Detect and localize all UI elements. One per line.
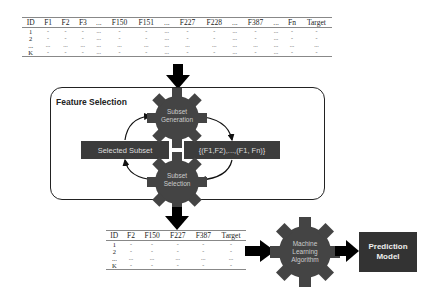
subset-generation-label: Subset Generation (150, 104, 204, 128)
selected-feature-table: ID F2 F150 F227 F387 Target 1 - - - - - … (106, 230, 246, 270)
col-header: Target (216, 231, 246, 241)
table-row: K - - - - - (106, 262, 246, 270)
arrow-down-icon (165, 207, 189, 230)
cell: - (191, 241, 217, 249)
cell: - (139, 262, 165, 270)
cell: - (139, 241, 165, 249)
col-header: ID (106, 231, 123, 241)
cell: - (123, 248, 140, 255)
cell: - (123, 241, 140, 249)
cell: - (165, 248, 191, 255)
cell: K (106, 262, 123, 270)
cell: 1 (106, 241, 123, 249)
cell: - (216, 241, 246, 249)
cell: - (191, 248, 217, 255)
cell: ... (106, 255, 123, 262)
output-table-header: ID F2 F150 F227 F387 Target (106, 231, 246, 241)
col-header: F387 (191, 231, 217, 241)
cell: ... (139, 255, 165, 262)
cell: - (216, 248, 246, 255)
table-row: ... ... ... ... ... ... (106, 255, 246, 262)
col-header: F150 (139, 231, 165, 241)
table-row: 2 - - - - - (106, 248, 246, 255)
cell: - (165, 241, 191, 249)
machine-learning-label: Machine Learning Algorithm (276, 237, 334, 267)
col-header: F2 (123, 231, 140, 241)
subset-selection-label: Subset Selection (150, 168, 204, 192)
cell: ... (165, 255, 191, 262)
table-row: 1 - - - - - (106, 241, 246, 249)
cell: - (139, 248, 165, 255)
cell: ... (123, 255, 140, 262)
cell: 2 (106, 248, 123, 255)
prediction-model-box: Prediction Model (359, 232, 417, 272)
cell: - (191, 262, 217, 270)
arrow-right-icon (335, 240, 359, 262)
col-header: F227 (165, 231, 191, 241)
cell: ... (191, 255, 217, 262)
cell: - (165, 262, 191, 270)
cell: ... (216, 255, 246, 262)
cell: - (123, 262, 140, 270)
cell: - (216, 262, 246, 270)
